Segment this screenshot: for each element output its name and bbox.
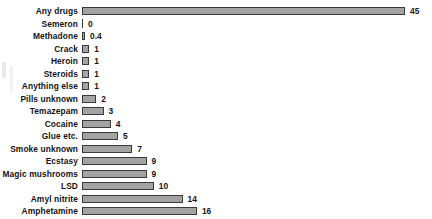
bar-row: Steroids1 — [0, 68, 432, 81]
category-label: Cannabis — [0, 218, 78, 219]
category-label: Cocaine — [0, 118, 78, 131]
bar — [82, 82, 89, 90]
category-label: Heroin — [0, 55, 78, 68]
bar — [82, 120, 111, 128]
bar-row: Temazepam3 — [0, 105, 432, 118]
bar-row: LSD10 — [0, 180, 432, 193]
bar-row: Crack1 — [0, 43, 432, 56]
category-label: Pills unknown — [0, 93, 78, 106]
bar — [82, 182, 154, 190]
value-label: 0 — [88, 18, 93, 31]
bar-row: Cocaine4 — [0, 118, 432, 131]
category-label: Smoke unknown — [0, 143, 78, 156]
bar-row: Smoke unknown7 — [0, 143, 432, 156]
category-label: LSD — [0, 180, 78, 193]
value-label: 4 — [116, 118, 121, 131]
bar-chart-figure: Any drugs45Semeron0Methadone0.4Crack1Her… — [0, 0, 432, 218]
bar-row: Magic mushrooms9 — [0, 168, 432, 181]
bar — [82, 57, 89, 65]
bar — [82, 195, 183, 203]
bar-row: Ecstasy9 — [0, 155, 432, 168]
category-label: Ecstasy — [0, 155, 78, 168]
bar-row: Semeron0 — [0, 18, 432, 31]
value-label: 2 — [101, 93, 106, 106]
bar-row: Amyl nitrite14 — [0, 193, 432, 206]
bar-row: Cannabis36 — [0, 218, 432, 219]
value-label: 1 — [94, 55, 99, 68]
value-label: 0.4 — [90, 30, 102, 43]
value-label: 1 — [94, 68, 99, 81]
category-label: Amphetamine — [0, 205, 78, 218]
bar — [82, 145, 132, 153]
value-label: 7 — [137, 143, 142, 156]
category-label: Steroids — [0, 68, 78, 81]
category-label: Magic mushrooms — [0, 168, 78, 181]
value-label: 45 — [410, 5, 419, 18]
bar — [82, 95, 96, 103]
bar — [82, 70, 89, 78]
category-label: Amyl nitrite — [0, 193, 78, 206]
bar — [82, 19, 83, 28]
bar-row: Glue etc.5 — [0, 130, 432, 143]
category-label: Temazepam — [0, 105, 78, 118]
value-label: 9 — [152, 155, 157, 168]
bar — [82, 7, 405, 15]
value-label: 5 — [123, 130, 128, 143]
value-label: 10 — [159, 180, 168, 193]
value-label: 36 — [345, 218, 354, 219]
category-label: Crack — [0, 43, 78, 56]
value-label: 3 — [109, 105, 114, 118]
bar-row: Pills unknown2 — [0, 93, 432, 106]
value-label: 14 — [188, 193, 197, 206]
bar — [82, 207, 197, 215]
category-label: Methadone — [0, 30, 78, 43]
value-label: 16 — [202, 205, 211, 218]
bar-row: Heroin1 — [0, 55, 432, 68]
bar — [82, 32, 85, 40]
plot-area: Any drugs45Semeron0Methadone0.4Crack1Her… — [0, 0, 432, 218]
value-label: 9 — [152, 168, 157, 181]
bar-row: Any drugs45 — [0, 5, 432, 18]
bar-row: Methadone0.4 — [0, 30, 432, 43]
bar — [82, 132, 118, 140]
value-label: 1 — [94, 80, 99, 93]
bar — [82, 107, 104, 115]
category-label: Glue etc. — [0, 130, 78, 143]
category-label: Any drugs — [0, 5, 78, 18]
bar — [82, 157, 147, 165]
bar-row: Anything else1 — [0, 80, 432, 93]
category-label: Semeron — [0, 18, 78, 31]
category-label: Anything else — [0, 80, 78, 93]
bar — [82, 170, 147, 178]
bar — [82, 45, 89, 53]
value-label: 1 — [94, 43, 99, 56]
bar-row: Amphetamine16 — [0, 205, 432, 218]
